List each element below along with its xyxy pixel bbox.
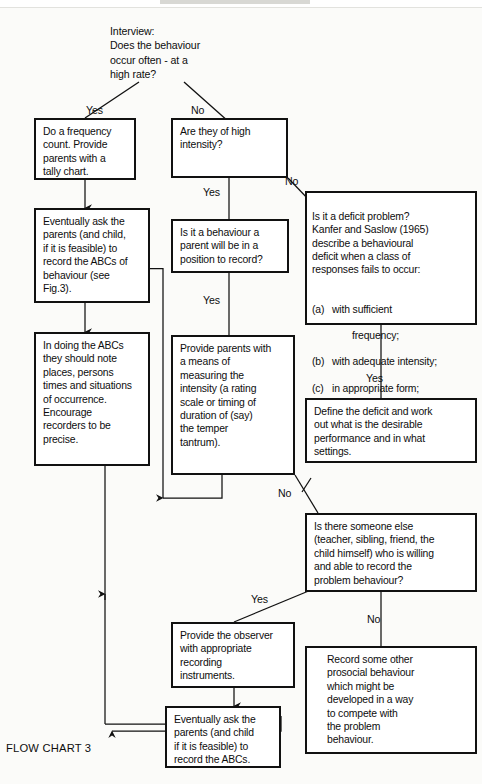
box-record-prosocial[interactable]: Record some other prosocial behaviour wh… [305,646,477,754]
deficit-item: frequency; [312,329,471,342]
wire-means-loopback-h [163,475,222,498]
deficit-item-text: frequency; [332,329,471,342]
box-parent-position-record[interactable]: Is it a behaviour a parent will be in a … [171,219,289,273]
wire-root-to-no [184,82,229,122]
wire-means-loopback-v [150,269,163,499]
box-define-deficit[interactable]: Define the deficit and work out what is … [305,398,477,463]
edge-label-parentrecord-yes: Yes [203,294,220,306]
deficit-item-marker [312,329,328,342]
box-provide-means-intensity[interactable]: Provide parents with a means of measurin… [171,335,295,475]
box-eventually-ask-short[interactable]: Eventually ask the parents (and child if… [165,706,281,768]
edge-label-means-no: No [278,487,291,499]
edge-label-intensity-yes: Yes [203,186,220,198]
deficit-item: (c) in appropriate form; [312,382,471,395]
edge-label-someone-yes: Yes [251,593,268,605]
wire-someone-yes-diag [234,590,311,622]
deficit-item: (a) with sufficient [312,303,471,316]
edge-label-root-yes: Yes [86,104,103,116]
box-frequency-count[interactable]: Do a frequency count. Provide parents wi… [34,118,136,180]
box-in-doing-abcs[interactable]: In doing the ABCs they should note place… [34,332,150,466]
deficit-item-marker: (b) [312,355,328,368]
deficit-item-marker: (a) [312,303,328,316]
deficit-item-text: in appropriate form; [332,382,471,395]
deficit-item-text: with adequate intensity; [332,355,471,368]
wire-means-no-diag [295,475,318,513]
deficit-intro: Is it a deficit problem? Kanfer and Sasl… [312,210,471,276]
edge-label-someone-no: No [367,613,380,625]
box-high-intensity[interactable]: Are they of high intensity? [171,118,288,178]
flowchart-canvas: Interview: Does the behaviour occur ofte… [0,0,482,784]
box-deficit-problem[interactable]: Is it a deficit problem? Kanfer and Sasl… [305,191,477,325]
box-someone-else[interactable]: Is there someone else (teacher, sibling,… [305,513,477,592]
deficit-item: (b) with adequate intensity; [312,355,471,368]
edge-label-root-no: No [191,104,204,116]
interview-prompt: Interview: Does the behaviour occur ofte… [110,24,200,82]
box-provide-observer[interactable]: Provide the observer with appropriate re… [171,622,295,688]
deficit-item-marker: (c) [312,382,328,395]
deficit-item-text: with sufficient [332,303,471,316]
scan-artifact [160,0,310,4]
flow-chart-caption: FLOW CHART 3 [6,742,91,754]
box-eventually-ask-abcs[interactable]: Eventually ask the parents (and child, i… [34,208,150,303]
wire-define-tail [302,478,311,492]
